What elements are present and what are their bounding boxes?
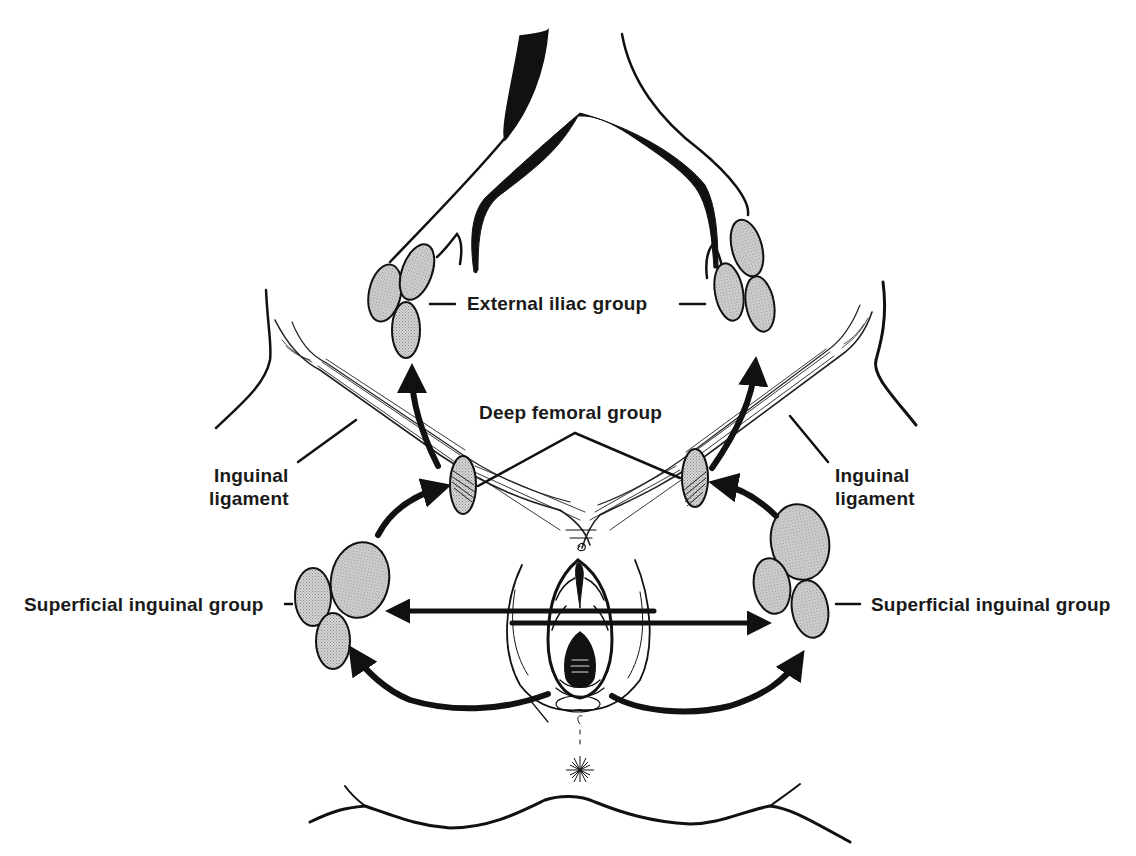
leader-inguinal-right — [790, 416, 828, 462]
label-inguinal-ligament-right-line1: Inguinal — [835, 464, 915, 487]
label-inguinal-ligament-right: Inguinal ligament — [835, 464, 915, 510]
label-superficial-inguinal-group-left: Superficial inguinal group — [24, 593, 264, 616]
label-inguinal-ligament-left: Inguinal ligament — [214, 464, 289, 510]
external-iliac-nodes-right — [710, 216, 778, 334]
label-inguinal-ligament-right-line2: ligament — [835, 487, 915, 510]
label-superficial-inguinal-group-right: Superficial inguinal group — [871, 593, 1111, 616]
label-deep-femoral-group: Deep femoral group — [479, 401, 662, 424]
superficial-inguinal-nodes-right — [749, 500, 835, 641]
anatomy-illustration — [0, 0, 1136, 856]
deep-femoral-hatch — [451, 470, 706, 506]
external-iliac-nodes-left — [363, 240, 441, 358]
label-inguinal-ligament-left-line1: Inguinal — [214, 464, 289, 487]
inguinal-ligament-right — [582, 305, 872, 548]
superficial-inguinal-nodes-left — [295, 538, 395, 669]
lymphatic-drainage-diagram: External iliac group Deep femoral group … — [0, 0, 1136, 856]
anus-illustration — [566, 756, 594, 782]
leader-inguinal-left — [298, 420, 356, 462]
crossing-arrows — [395, 611, 762, 623]
label-external-iliac-group: External iliac group — [467, 292, 647, 315]
iliac-vessels — [390, 30, 748, 278]
label-inguinal-ligament-left-line2: ligament — [209, 487, 289, 510]
buttocks-outline — [310, 784, 850, 842]
inguinal-ligament-left — [275, 320, 590, 545]
vulva-illustration — [507, 530, 650, 744]
leader-deep-femoral — [478, 433, 680, 486]
